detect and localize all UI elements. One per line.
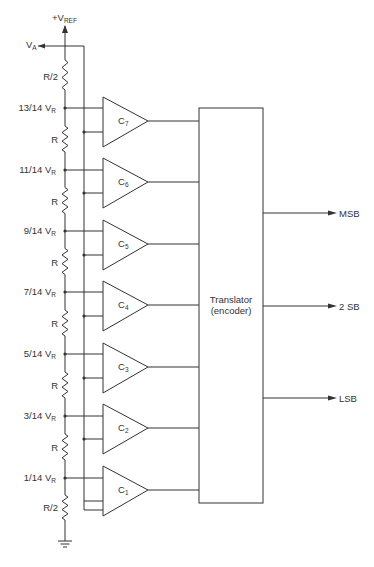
vref-arrow-icon: [62, 25, 68, 60]
resistor-label: R: [51, 318, 58, 329]
resistor-icon: [62, 126, 68, 152]
comparator-label: C3: [118, 361, 129, 373]
vref-label: +VREF: [52, 12, 77, 24]
flash-adc-diagram: +VREF VA R/2RRRRRRR/213/14 VR11/14 VR9/1…: [0, 0, 374, 567]
resistor-icon: [62, 249, 68, 275]
tap-label: 11/14 VR: [19, 164, 56, 176]
resistor-icon: [62, 188, 68, 214]
resistor-label: R: [51, 257, 58, 268]
va-label: VA: [26, 39, 37, 51]
tap-label: 3/14 VR: [24, 410, 56, 422]
output-msb: MSB: [263, 208, 360, 219]
resistor-label: R: [51, 380, 58, 391]
resistor-label: R: [51, 134, 58, 145]
resistor-icon: [62, 60, 68, 90]
translator-line1: Translator: [210, 294, 252, 305]
output-lsb: LSB: [263, 393, 357, 404]
output-lines: MSB2 SBLSB: [263, 208, 360, 404]
output-label: LSB: [339, 393, 357, 404]
comparator-label: C1: [118, 484, 129, 496]
tap-label: 13/14 VR: [19, 102, 57, 114]
comparator-4: C4: [82, 281, 199, 331]
resistor-label: R/2: [43, 71, 58, 82]
comparator-label: C4: [118, 299, 129, 311]
resistor-label: R: [51, 442, 58, 453]
resistor-icon: [62, 310, 68, 336]
output-label: MSB: [339, 208, 360, 219]
resistor-icon: [62, 372, 68, 398]
tap-label: 1/14 VR: [24, 472, 56, 484]
resistor-label: R: [51, 196, 58, 207]
comparator-5: C5: [82, 220, 199, 270]
comparator-label: C5: [118, 238, 129, 250]
resistor-icon: [62, 495, 68, 520]
output-label: 2 SB: [339, 301, 360, 312]
comparator-6: C6: [82, 158, 199, 208]
comparator-7: C7: [82, 97, 199, 147]
comparator-2: C2: [82, 404, 199, 454]
comparator-3: C3: [82, 343, 199, 393]
comparator-label: C2: [118, 422, 129, 434]
arrow-right-icon: [328, 211, 337, 216]
resistor-icon: [62, 434, 68, 460]
arrow-right-icon: [328, 396, 337, 401]
output-2sb: 2 SB: [263, 301, 360, 312]
translator-line2: (encoder): [211, 305, 252, 316]
tap-label: 9/14 VR: [24, 225, 56, 237]
arrow-right-icon: [328, 304, 337, 309]
comparator-label: C6: [118, 176, 129, 188]
resistor-ladder: R/2RRRRRRR/213/14 VR11/14 VR9/14 VR7/14 …: [19, 60, 103, 520]
comparator-1: C1: [84, 466, 199, 516]
tap-label: 5/14 VR: [24, 348, 56, 360]
comparator-label: C7: [118, 115, 129, 127]
tap-label: 7/14 VR: [24, 286, 56, 298]
ground-icon: [58, 520, 72, 547]
va-input-arrow-icon: [38, 44, 103, 511]
comparator-bank: C7C6C5C4C3C2C1: [82, 97, 199, 516]
resistor-label: R/2: [43, 502, 58, 513]
